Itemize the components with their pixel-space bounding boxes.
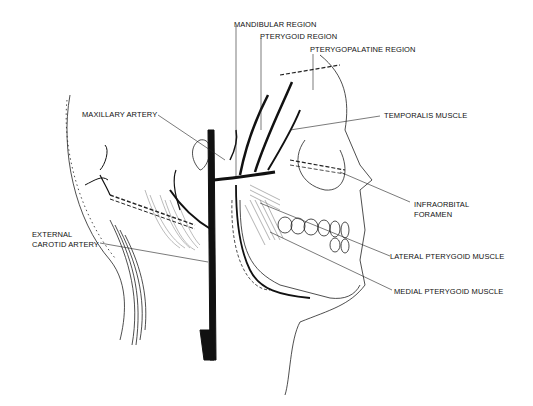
label-pterygopalatine-region: PTERYGOPALATINE REGION <box>310 45 416 55</box>
label-infraorbital-line1: INFRAORBITAL <box>414 200 469 210</box>
label-lateral-pterygoid: LATERAL PTERYGOID MUSCLE <box>390 252 504 262</box>
label-infraorbital-line2: FORAMEN <box>414 210 452 220</box>
label-maxillary-artery: MAXILLARY ARTERY <box>82 110 157 120</box>
label-mandibular-region: MANDIBULAR REGION <box>234 20 317 30</box>
label-pterygoid-region: PTERYGOID REGION <box>260 32 337 42</box>
label-external-carotid-line2: CAROTID ARTERY <box>32 240 99 250</box>
label-external-carotid-line1: EXTERNAL <box>32 230 72 240</box>
anatomy-figure: MANDIBULAR REGION PTERYGOID REGION PTERY… <box>0 0 533 406</box>
label-temporalis-muscle: TEMPORALIS MUSCLE <box>384 111 467 121</box>
label-medial-pterygoid: MEDIAL PTERYGOID MUSCLE <box>394 287 503 297</box>
